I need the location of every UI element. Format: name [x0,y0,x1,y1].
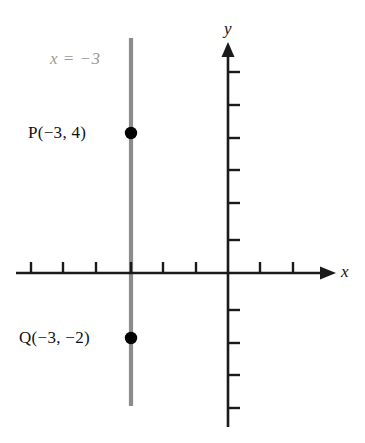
y-axis-label: y [224,20,232,37]
point-marker-q [125,332,137,344]
point-marker-p [125,127,137,139]
point-label-p: P(−3, 4) [28,124,86,141]
y-axis-ticks [228,72,240,408]
point-label-q: Q(−3, −2) [19,329,90,346]
y-axis [222,42,235,427]
coordinate-plane-figure: x = −3 P(−3, 4) Q(−3, −2) x y [0,0,365,443]
line-equation-label: x = −3 [50,50,101,67]
x-axis-label: x [341,263,349,280]
x-axis-ticks [31,262,293,273]
